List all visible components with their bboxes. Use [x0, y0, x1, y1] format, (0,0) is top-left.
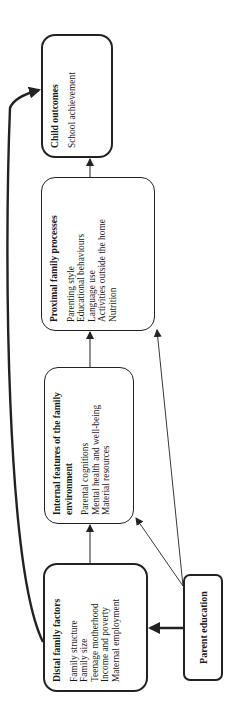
box-title: Internal features of the family environm…: [51, 376, 74, 515]
box-title: Proximal family processes: [48, 186, 60, 322]
list-item: Income and poverty: [100, 573, 111, 682]
list-item: Material resources: [101, 376, 112, 515]
list-item: Activities outside the home: [97, 186, 108, 322]
list-item: Parental cognitions: [80, 376, 91, 515]
list-item: Educational behaviours: [76, 186, 87, 322]
box-child-outcomes: Child outcomes School achievement: [41, 34, 113, 158]
box-distal-family-factors: Distal family factors Family structure F…: [43, 563, 148, 692]
box-proximal-family-processes: Proximal family processes Parenting styl…: [41, 177, 155, 331]
box-title: Parent education: [198, 591, 209, 664]
list-item: Language use: [87, 186, 98, 322]
box-title: Child outcomes: [49, 44, 61, 148]
list-item: Family size: [79, 573, 90, 682]
list-item: Teenage motherhood: [90, 573, 101, 682]
arrow-distal-to-child: [7, 90, 43, 642]
list-item: Maternal employment: [111, 573, 122, 682]
box-internal-features: Internal features of the family environm…: [44, 367, 134, 524]
list-item: Parenting style: [66, 186, 77, 322]
list-item: Mental health and well-being: [91, 376, 102, 515]
list-item: School achievement: [67, 44, 78, 148]
list-item: Nutrition: [108, 186, 119, 322]
box-title: Distal family factors: [51, 573, 63, 682]
list-item: Family structure: [69, 573, 80, 682]
arrow-parent-education-to-proximal: [157, 330, 183, 586]
box-parent-education: Parent education: [183, 574, 223, 681]
diagram-stage: Distal family factors Family structure F…: [0, 0, 231, 728]
